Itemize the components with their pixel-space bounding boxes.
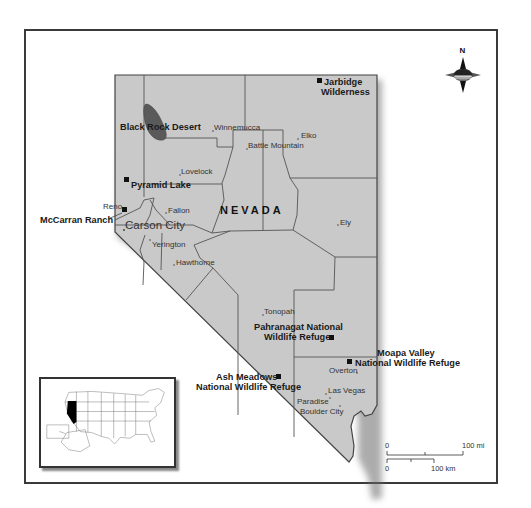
city-label-lovelock: Lovelock (181, 167, 214, 176)
city-label-boulder-city: Boulder City (300, 407, 344, 416)
city-label-hawthorne: Hawthorne (176, 258, 215, 267)
capital-label: Carson City (125, 219, 185, 231)
site-label-moapa-line2: National Wildlife Refuge (355, 358, 460, 368)
city-label-battle-mountain: Battle Mountain (248, 141, 304, 150)
city-label-winnemucca: Winnemucca (214, 123, 261, 132)
north-arrow-icon: N (445, 46, 481, 93)
site-label-pahranagat-line2: Wildlife Refuge (264, 332, 330, 342)
city-label-tonopah: Tonopah (264, 307, 295, 316)
city-label-las-vegas: Las Vegas (328, 386, 365, 395)
us-outline-map (41, 379, 174, 466)
city-label-reno: Reno (103, 202, 123, 211)
site-label-pahranagat: Pahranagat National (254, 322, 343, 332)
city-label-ely: Ely (340, 218, 351, 227)
scale-bar: 0 100 mi 0 100 km (385, 441, 485, 473)
scale-mi-end: 100 mi (462, 441, 485, 450)
site-label-black-rock-desert: Black Rock Desert (120, 122, 201, 132)
site-label-ash-meadows-line2: National Wildlife Refuge (196, 382, 301, 392)
us-locator-inset (39, 377, 176, 468)
north-label: N (460, 46, 466, 55)
site-label-mccarran-ranch: McCarran Ranch (40, 215, 113, 225)
city-label-yerington: Yerington (152, 240, 186, 249)
nevada-highlight (67, 401, 77, 424)
city-label-overton: Overton (329, 366, 357, 375)
city-label-fallon: Fallon (168, 206, 190, 215)
site-label-ash-meadows: Ash Meadows (216, 372, 277, 382)
site-label-moapa: Moapa Valley (377, 348, 436, 358)
state-label: NEVADA (220, 204, 284, 216)
site-label-jarbidge-line2: Wilderness (321, 87, 370, 97)
city-label-elko: Elko (301, 131, 317, 140)
scale-km-end: 100 km (431, 464, 456, 473)
city-label-paradise: Paradise (297, 397, 329, 406)
scale-mi-start: 0 (385, 441, 389, 450)
site-label-jarbidge: Jarbidge (324, 77, 362, 87)
site-label-pyramid-lake: Pyramid Lake (131, 180, 191, 190)
scale-km-start: 0 (385, 464, 389, 473)
